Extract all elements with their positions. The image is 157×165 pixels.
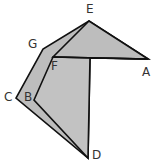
fold-diagram: E G F A C B D bbox=[0, 0, 157, 165]
label-B: B bbox=[24, 90, 32, 104]
label-A: A bbox=[142, 65, 151, 79]
label-E: E bbox=[86, 2, 94, 16]
label-D: D bbox=[92, 148, 101, 162]
label-G: G bbox=[28, 37, 37, 51]
label-F: F bbox=[51, 59, 58, 73]
label-C: C bbox=[4, 90, 12, 104]
